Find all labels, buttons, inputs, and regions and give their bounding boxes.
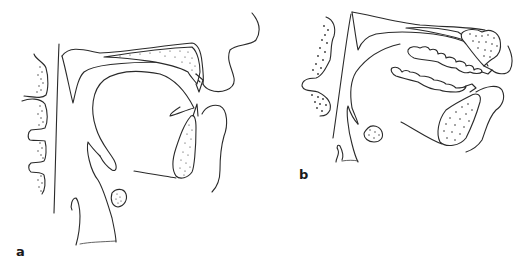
- maxilla-b: [461, 29, 500, 66]
- larynx-floor-a: [80, 241, 116, 244]
- anatomical-diagram: [0, 0, 530, 267]
- lower-teeth-b: [391, 67, 466, 92]
- panel-b: [302, 12, 512, 162]
- panel-label-a: a: [16, 245, 25, 258]
- epiglottis-b: [347, 106, 358, 162]
- upper-incisor-b: [482, 66, 492, 74]
- cervical-vertebrae-a: [22, 54, 48, 194]
- panel-a: [22, 13, 259, 245]
- lower-incisor-a: [193, 104, 198, 116]
- larynx-floor-b: [342, 160, 358, 161]
- pharyngeal-wall-a: [54, 44, 59, 213]
- tongue-b: [351, 44, 400, 124]
- mandible-a: [173, 116, 196, 179]
- lower-incisor-b: [466, 84, 476, 92]
- hard-palate-a: [104, 47, 200, 84]
- hyoid-b: [364, 126, 383, 142]
- nose-upper-lip-a: [203, 13, 259, 92]
- panel-label-b: b: [299, 168, 308, 181]
- pharyngeal-wall-b: [333, 14, 351, 138]
- mandible-b: [438, 94, 480, 145]
- floor-of-mouth-b: [401, 122, 442, 144]
- larynx-b: [336, 145, 343, 162]
- larynx-a: [71, 198, 80, 245]
- lower-lip-chin-a: [202, 105, 227, 192]
- hyoid-a: [111, 189, 126, 207]
- cervical-vertebrae-b: [302, 17, 335, 116]
- floor-of-mouth-a: [134, 171, 176, 178]
